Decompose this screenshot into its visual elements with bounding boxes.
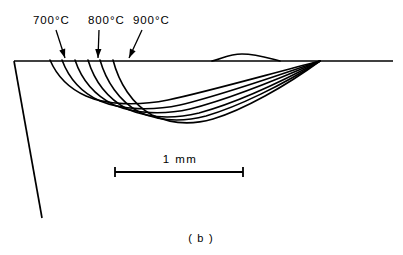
arrow-head-icon [59,48,65,58]
isotherm-diagram: 700°C 800°C 900°C 1 mm ( b ) [0,0,403,255]
arrow-head-icon [95,49,101,58]
isotherm-label-800c: 800°C [88,14,125,26]
specimen-left-boundary-line [14,61,42,218]
figure-caption: ( b ) [188,232,214,244]
leader-group [56,30,142,58]
scale-bar: 1 mm [115,153,243,177]
isotherm-label-group: 700°C 800°C 900°C [33,14,170,26]
isotherm-contour-group [50,60,320,123]
scale-bar-rule [115,167,243,177]
scale-bar-label: 1 mm [163,153,197,165]
isotherm-label-700c: 700°C [33,14,70,26]
surface-ridge-line [212,54,280,61]
arrow-head-icon [129,49,136,58]
figure-container: 700°C 800°C 900°C 1 mm ( b ) [0,0,403,255]
isotherm-label-900c: 900°C [133,14,170,26]
